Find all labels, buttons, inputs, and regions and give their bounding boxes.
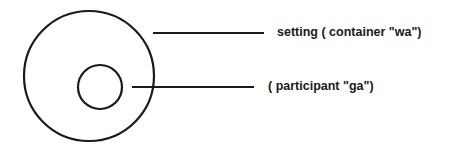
outer-circle-setting xyxy=(24,11,154,141)
setting-label: setting ( container "wa") xyxy=(277,26,422,39)
inner-circle-participant xyxy=(78,65,122,109)
participant-label: ( participant "ga") xyxy=(268,80,374,93)
diagram-canvas xyxy=(0,0,462,151)
